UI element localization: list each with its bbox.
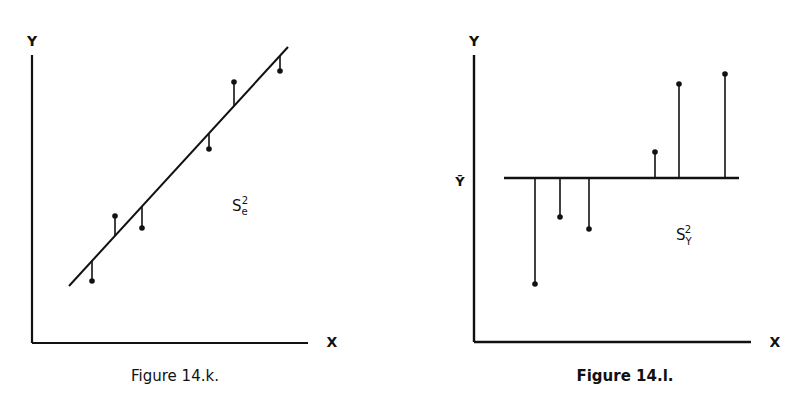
total-variance-label: SY2 [676, 224, 693, 247]
data-point [112, 213, 118, 219]
data-point [532, 281, 538, 287]
residual-variance-label: Se2 [232, 195, 248, 217]
regression-line [69, 47, 288, 286]
caption-figure-14l: Figure 14.l. [576, 367, 673, 385]
x-axis-label: X [327, 334, 338, 350]
data-point [652, 149, 658, 155]
data-point [586, 226, 592, 232]
data-point [89, 278, 95, 284]
mean-label: Ȳ [454, 174, 465, 189]
x-axis-label: X [770, 334, 781, 350]
residual-points [89, 56, 283, 284]
figure-canvas: Y X Se2 Figure 14.k. Y X Ȳ SY2 Figure 14… [0, 0, 800, 394]
y-axis-label: Y [26, 33, 38, 49]
data-point [231, 79, 237, 85]
caption-figure-14k: Figure 14.k. [131, 367, 219, 385]
y-axis-label: Y [468, 33, 480, 49]
figure-14k: Y X Se2 Figure 14.k. [26, 33, 338, 385]
data-point [206, 146, 212, 152]
data-point [722, 71, 728, 77]
data-point [676, 81, 682, 87]
data-point [139, 225, 145, 231]
figure-14l: Y X Ȳ SY2 Figure 14.l. [454, 33, 780, 385]
data-point [557, 214, 563, 220]
data-point [277, 68, 283, 74]
